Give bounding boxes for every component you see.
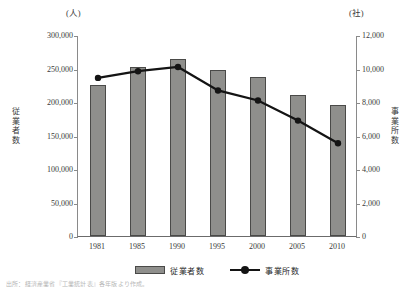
right-axis-tick-label: 6,000 [362, 132, 380, 141]
left-axis-tick-label: 200,000 [47, 98, 73, 107]
right-axis-tick-label: 8,000 [362, 98, 380, 107]
legend-item-employees: 従業者数 [135, 265, 204, 276]
line-marker-2010 [335, 140, 341, 146]
legend-label-establishments: 事業所数 [265, 265, 299, 276]
line-marker-1985 [135, 68, 141, 74]
right-axis-unit-label: (社) [349, 6, 364, 18]
chart-legend: 従業者数 事業所数 [77, 262, 357, 278]
legend-item-establishments: 事業所数 [230, 265, 299, 276]
left-axis-tick-label: 150,000 [47, 132, 73, 141]
left-axis-tick-labels: 300,000250,000200,000150,000100,00050,00… [20, 36, 73, 237]
line-marker-2000 [255, 97, 261, 103]
legend-label-employees: 従業者数 [170, 265, 204, 276]
axis-tick [356, 170, 360, 171]
x-tick-1995: 1995 [209, 242, 225, 251]
axis-tick [356, 70, 360, 71]
x-tick-2010: 2010 [329, 242, 345, 251]
line-path [98, 67, 338, 143]
x-tick-1981: 1981 [89, 242, 105, 251]
source-note: 出所：経済産業省『工業統計表』各年版より作成。 [6, 279, 336, 287]
axis-tick [356, 137, 360, 138]
line-dot-icon [230, 266, 260, 274]
plot-area [77, 36, 357, 237]
right-axis-tick-label: 0 [362, 232, 366, 241]
line-marker-2005 [295, 117, 301, 123]
chart-figure: (人) (社) 従業者数 事業所数 300,000250,000200,0001… [0, 0, 411, 287]
right-axis-tick-label: 12,000 [362, 31, 384, 40]
axis-tick [356, 204, 360, 205]
axis-tick [74, 170, 78, 171]
x-axis-tick-labels: 1981198519901995200020052010 [77, 242, 357, 256]
right-axis-tick-labels: 12,00010,0008,0006,0004,0002,0000 [362, 36, 408, 237]
line-series [78, 36, 358, 237]
axis-tick [74, 70, 78, 71]
bar-swatch-icon [135, 266, 165, 274]
left-axis-tick-label: 50,000 [51, 199, 73, 208]
x-tick-2000: 2000 [249, 242, 265, 251]
axis-tick [356, 36, 360, 37]
axis-tick [74, 36, 78, 37]
x-tick-1985: 1985 [129, 242, 145, 251]
left-axis-tick-label: 0 [69, 232, 73, 241]
right-axis-tick-label: 10,000 [362, 65, 384, 74]
right-axis-tick-label: 2,000 [362, 199, 380, 208]
line-marker-1995 [215, 87, 221, 93]
left-axis-title: 従業者数 [10, 107, 18, 145]
right-axis-tick-label: 4,000 [362, 165, 380, 174]
left-axis-tick-label: 250,000 [47, 65, 73, 74]
axis-tick [74, 137, 78, 138]
x-tick-2005: 2005 [289, 242, 305, 251]
axis-tick [74, 237, 78, 238]
axis-tick [356, 103, 360, 104]
x-tick-1990: 1990 [169, 242, 185, 251]
left-axis-tick-label: 300,000 [47, 31, 73, 40]
axis-tick [74, 204, 78, 205]
line-marker-1981 [95, 75, 101, 81]
axis-tick [74, 103, 78, 104]
left-axis-unit-label: (人) [66, 6, 81, 18]
left-axis-tick-label: 100,000 [47, 165, 73, 174]
axis-tick [356, 237, 360, 238]
line-marker-1990 [175, 64, 181, 70]
